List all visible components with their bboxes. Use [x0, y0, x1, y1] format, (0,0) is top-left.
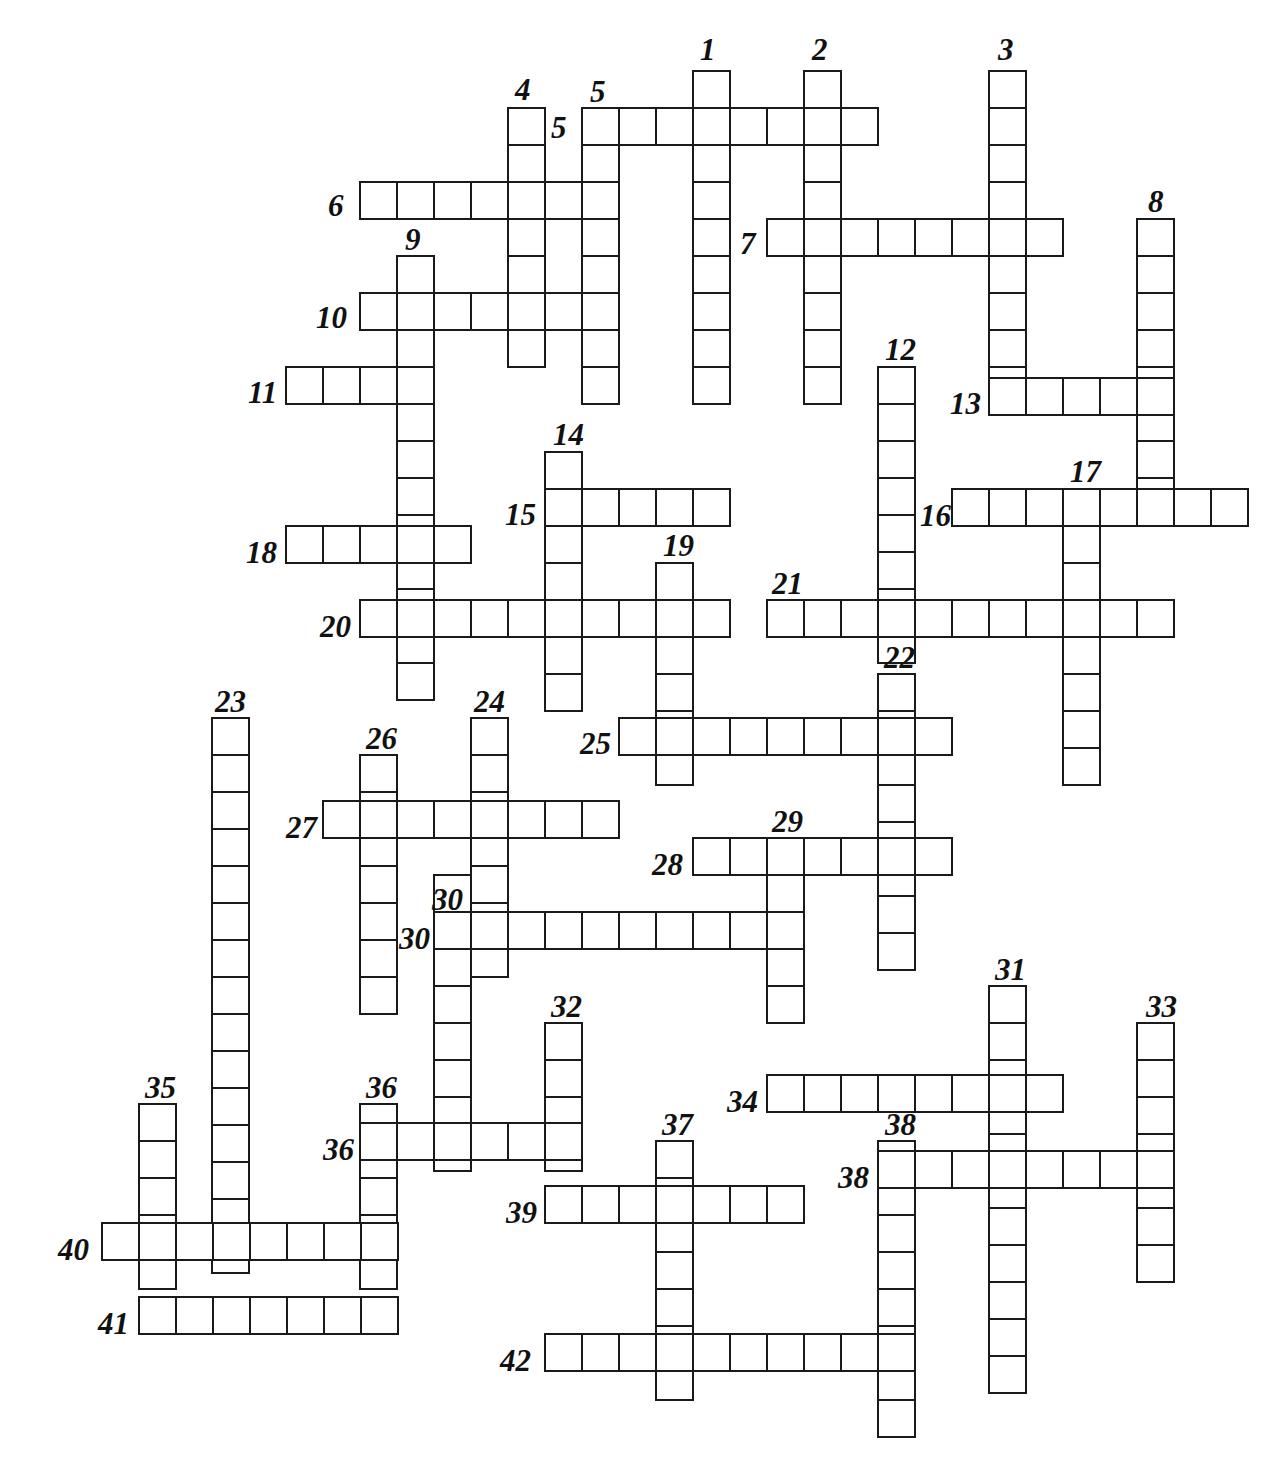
crossword-cell[interactable]: [951, 1074, 990, 1113]
crossword-cell[interactable]: [655, 1251, 694, 1290]
crossword-cell[interactable]: [692, 488, 731, 527]
crossword-cell[interactable]: [138, 1222, 177, 1261]
crossword-cell[interactable]: [1210, 488, 1249, 527]
crossword-cell[interactable]: [914, 599, 953, 638]
crossword-cell[interactable]: [803, 181, 842, 220]
crossword-cell[interactable]: [359, 1122, 398, 1161]
crossword-cell[interactable]: [655, 488, 694, 527]
crossword-cell[interactable]: [581, 181, 620, 220]
crossword-cell[interactable]: [803, 717, 842, 756]
crossword-cell[interactable]: [211, 1013, 250, 1052]
crossword-cell[interactable]: [766, 218, 805, 257]
crossword-cell[interactable]: [988, 1022, 1027, 1061]
crossword-cell[interactable]: [655, 636, 694, 675]
crossword-cell[interactable]: [1136, 1059, 1175, 1098]
crossword-cell[interactable]: [692, 70, 731, 109]
crossword-cell[interactable]: [988, 488, 1027, 527]
crossword-cell[interactable]: [1062, 1150, 1101, 1189]
crossword-cell[interactable]: [544, 1059, 583, 1098]
crossword-cell[interactable]: [101, 1222, 140, 1261]
crossword-cell[interactable]: [1062, 673, 1101, 712]
crossword-cell[interactable]: [803, 70, 842, 109]
crossword-cell[interactable]: [1099, 488, 1138, 527]
crossword-cell[interactable]: [692, 1185, 731, 1224]
crossword-cell[interactable]: [396, 800, 435, 839]
crossword-cell[interactable]: [211, 717, 250, 756]
crossword-cell[interactable]: [988, 329, 1027, 368]
crossword-cell[interactable]: [433, 1059, 472, 1098]
crossword-cell[interactable]: [433, 292, 472, 331]
crossword-cell[interactable]: [322, 366, 361, 405]
crossword-cell[interactable]: [544, 488, 583, 527]
crossword-cell[interactable]: [359, 902, 398, 941]
crossword-cell[interactable]: [766, 911, 805, 950]
crossword-cell[interactable]: [581, 1185, 620, 1224]
crossword-cell[interactable]: [581, 255, 620, 294]
crossword-cell[interactable]: [359, 181, 398, 220]
crossword-cell[interactable]: [988, 1318, 1027, 1357]
crossword-cell[interactable]: [285, 366, 324, 405]
crossword-cell[interactable]: [1099, 1150, 1138, 1189]
crossword-cell[interactable]: [618, 1333, 657, 1372]
crossword-cell[interactable]: [692, 218, 731, 257]
crossword-cell[interactable]: [692, 1333, 731, 1372]
crossword-cell[interactable]: [655, 1333, 694, 1372]
crossword-cell[interactable]: [359, 292, 398, 331]
crossword-cell[interactable]: [323, 1296, 362, 1335]
crossword-cell[interactable]: [655, 1140, 694, 1179]
crossword-cell[interactable]: [470, 1122, 509, 1161]
crossword-cell[interactable]: [433, 1022, 472, 1061]
crossword-cell[interactable]: [1136, 377, 1175, 416]
crossword-cell[interactable]: [877, 1251, 916, 1290]
crossword-cell[interactable]: [1062, 525, 1101, 564]
crossword-cell[interactable]: [396, 1122, 435, 1161]
crossword-cell[interactable]: [396, 403, 435, 442]
crossword-cell[interactable]: [877, 551, 916, 590]
crossword-cell[interactable]: [396, 599, 435, 638]
crossword-cell[interactable]: [951, 218, 990, 257]
crossword-cell[interactable]: [360, 1222, 399, 1261]
crossword-cell[interactable]: [359, 976, 398, 1015]
crossword-cell[interactable]: [766, 599, 805, 638]
crossword-cell[interactable]: [692, 329, 731, 368]
crossword-cell[interactable]: [877, 1288, 916, 1327]
crossword-cell[interactable]: [803, 1333, 842, 1372]
crossword-cell[interactable]: [988, 181, 1027, 220]
crossword-cell[interactable]: [766, 837, 805, 876]
crossword-cell[interactable]: [766, 717, 805, 756]
crossword-cell[interactable]: [1136, 1022, 1175, 1061]
crossword-cell[interactable]: [877, 477, 916, 516]
crossword-cell[interactable]: [359, 366, 398, 405]
crossword-cell[interactable]: [544, 292, 583, 331]
crossword-cell[interactable]: [877, 599, 916, 638]
crossword-cell[interactable]: [544, 1185, 583, 1224]
crossword-cell[interactable]: [1062, 636, 1101, 675]
crossword-cell[interactable]: [692, 911, 731, 950]
crossword-cell[interactable]: [840, 837, 879, 876]
crossword-cell[interactable]: [1136, 329, 1175, 368]
crossword-cell[interactable]: [692, 717, 731, 756]
crossword-cell[interactable]: [803, 366, 842, 405]
crossword-cell[interactable]: [766, 107, 805, 146]
crossword-cell[interactable]: [211, 1050, 250, 1089]
crossword-cell[interactable]: [655, 717, 694, 756]
crossword-cell[interactable]: [507, 800, 546, 839]
crossword-cell[interactable]: [877, 784, 916, 823]
crossword-cell[interactable]: [840, 599, 879, 638]
crossword-cell[interactable]: [988, 1244, 1027, 1283]
crossword-cell[interactable]: [877, 403, 916, 442]
crossword-cell[interactable]: [729, 837, 768, 876]
crossword-cell[interactable]: [507, 218, 546, 257]
crossword-cell[interactable]: [877, 514, 916, 553]
crossword-cell[interactable]: [803, 144, 842, 183]
crossword-cell[interactable]: [914, 837, 953, 876]
crossword-cell[interactable]: [914, 218, 953, 257]
crossword-cell[interactable]: [544, 1333, 583, 1372]
crossword-cell[interactable]: [507, 599, 546, 638]
crossword-cell[interactable]: [507, 911, 546, 950]
crossword-cell[interactable]: [877, 218, 916, 257]
crossword-cell[interactable]: [766, 985, 805, 1024]
crossword-cell[interactable]: [618, 488, 657, 527]
crossword-cell[interactable]: [396, 329, 435, 368]
crossword-cell[interactable]: [914, 1150, 953, 1189]
